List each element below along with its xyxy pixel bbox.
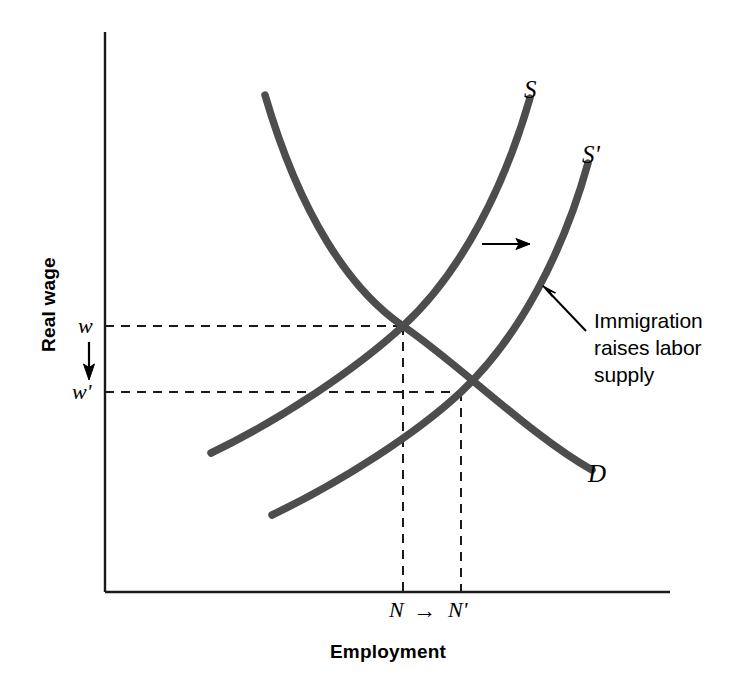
labor-market-diagram: Real wage Employment w w' N → N' S S' D … bbox=[0, 0, 731, 688]
wage-decline-arrow bbox=[84, 342, 95, 380]
wage-new-label: w' bbox=[72, 379, 91, 405]
supply-shift-arrow bbox=[482, 239, 530, 250]
supply-curve-label: S bbox=[524, 75, 537, 105]
guide-lines-group bbox=[105, 326, 461, 592]
employment-shift-arrow-glyph: → bbox=[413, 597, 436, 624]
annotation-pointer-arrow bbox=[543, 286, 586, 331]
x-axis-title: Employment bbox=[330, 641, 446, 663]
supply-curve bbox=[211, 98, 530, 453]
annotation-line-3: supply bbox=[594, 363, 654, 388]
wage-initial-label: w bbox=[78, 313, 93, 339]
demand-curve-label: D bbox=[588, 459, 606, 489]
supply-shifted-curve-label: S' bbox=[582, 140, 600, 170]
supply-shifted-curve bbox=[272, 163, 588, 515]
annotation-line-1: Immigration bbox=[594, 309, 703, 334]
y-axis-title: Real wage bbox=[38, 257, 60, 352]
annotation-line-2: raises labor bbox=[594, 336, 701, 361]
employment-initial-label: N bbox=[389, 597, 404, 623]
employment-new-label: N' bbox=[448, 597, 467, 623]
